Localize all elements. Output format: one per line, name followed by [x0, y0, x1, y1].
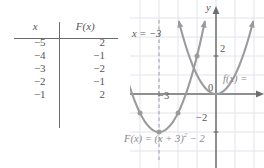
table-row: −5 2	[14, 35, 118, 48]
math-figure-screenshot: x F(x) −5 2 −4 −1 −3 −2 −2	[0, 0, 264, 168]
cell-fx: −2	[57, 61, 118, 74]
table-row: −3 −2	[14, 61, 118, 74]
y-axis-arrowhead	[213, 6, 220, 14]
table-row: −2 −1	[14, 74, 118, 87]
y-tick-label-2: 2	[220, 43, 225, 54]
equation-suffix: − 2	[187, 133, 205, 144]
parent-function-label: f(x) =	[223, 73, 247, 84]
table-header-divider	[14, 38, 118, 39]
table-row: −1 2	[14, 87, 118, 100]
cell-x: −5	[14, 35, 57, 48]
cell-x: −1	[14, 87, 57, 100]
cell-fx: 2	[57, 87, 118, 100]
cell-fx: −1	[57, 74, 118, 87]
column-header-fx: F(x)	[57, 20, 118, 35]
cell-x: −4	[14, 48, 57, 61]
x-axis-arrowhead	[256, 91, 264, 98]
parabola-graph: y 0 2 −2 −3 x = −3 f(x) = F(x) = (x + 3)…	[130, 0, 264, 168]
origin-label: 0	[208, 82, 213, 93]
y-axis-label: y	[206, 2, 211, 13]
table-row: −4 −1	[14, 48, 118, 61]
cell-x: −2	[14, 74, 57, 87]
cell-fx: −1	[57, 48, 118, 61]
cell-x: −3	[14, 61, 57, 74]
y-tick-label-neg-2: −2	[196, 112, 207, 123]
axis-of-symmetry-label: x = −3	[132, 28, 161, 39]
shifted-function-label: F(x) = (x + 3)2 − 2	[124, 131, 205, 144]
plotted-point	[138, 111, 143, 116]
plotted-point	[176, 111, 181, 116]
table-grid: x F(x) −5 2 −4 −1 −3 −2 −2	[14, 20, 118, 100]
cell-fx: 2	[57, 35, 118, 48]
function-value-table: x F(x) −5 2 −4 −1 −3 −2 −2	[14, 20, 118, 132]
column-header-x: x	[14, 20, 57, 35]
x-tick-label-neg-3: −3	[158, 90, 169, 101]
equation-prefix: F(x) = (x + 3)	[124, 133, 184, 144]
plotted-point	[195, 54, 200, 59]
table-header-row: x F(x)	[14, 20, 118, 35]
